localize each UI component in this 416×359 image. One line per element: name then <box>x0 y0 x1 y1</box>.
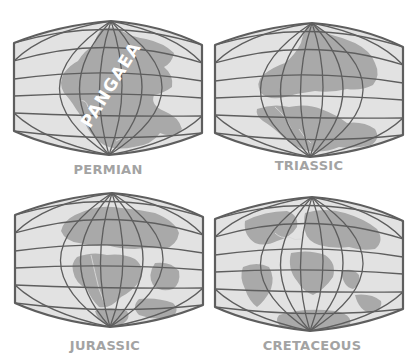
map-panel-jurassic <box>15 193 203 327</box>
label-cretaceous: CRETACEOUS <box>263 338 362 353</box>
map-panel-triassic <box>215 23 403 157</box>
map-panel-cretaceous <box>215 197 403 331</box>
map-panel-permian: PANGAEA <box>14 21 202 155</box>
continental-drift-diagram: PANGAEA PERMIAN TRIASSIC JURASSIC <box>0 0 416 359</box>
label-jurassic: JURASSIC <box>69 338 140 353</box>
label-triassic: TRIASSIC <box>275 158 344 173</box>
label-permian: PERMIAN <box>73 162 142 177</box>
